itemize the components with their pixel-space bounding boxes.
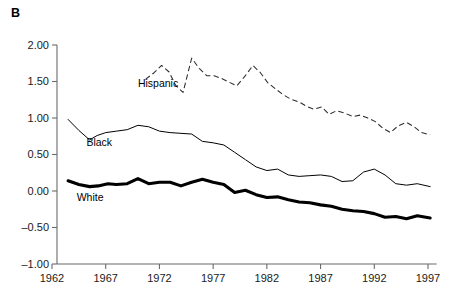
x-tick-label: 1982 <box>255 272 279 284</box>
y-tick-label: 0.50 <box>28 148 49 160</box>
x-axis: 19621967197219771982198719921997 <box>40 264 440 284</box>
x-tick-label: 1962 <box>40 272 64 284</box>
y-axis: –1.00–0.500.000.501.001.502.00 <box>21 39 57 270</box>
x-tick-label: 1972 <box>147 272 171 284</box>
y-tick-label: 1.00 <box>28 112 49 124</box>
x-tick-label: 1967 <box>93 272 117 284</box>
series-label-black: Black <box>86 136 112 148</box>
y-tick-label: –0.50 <box>21 221 49 233</box>
series-line-black <box>68 119 430 186</box>
series-layer <box>68 58 430 219</box>
series-line-white <box>68 179 430 219</box>
y-tick-label: 0.00 <box>28 185 49 197</box>
x-tick-label: 1992 <box>362 272 386 284</box>
series-label-hispanic: Hispanic <box>138 77 178 89</box>
x-tick-label: 1977 <box>201 272 225 284</box>
y-tick-label: –1.00 <box>21 258 49 270</box>
series-line-hispanic <box>145 58 430 135</box>
line-chart-plot: –1.00–0.500.000.501.001.502.00 196219671… <box>0 0 459 304</box>
chart-figure: B –1.00–0.500.000.501.001.502.00 1962196… <box>0 0 459 304</box>
series-label-white: White <box>77 191 104 203</box>
y-tick-label: 2.00 <box>28 39 49 51</box>
x-tick-label: 1987 <box>308 272 332 284</box>
y-tick-label: 1.50 <box>28 75 49 87</box>
x-tick-label: 1997 <box>416 272 440 284</box>
